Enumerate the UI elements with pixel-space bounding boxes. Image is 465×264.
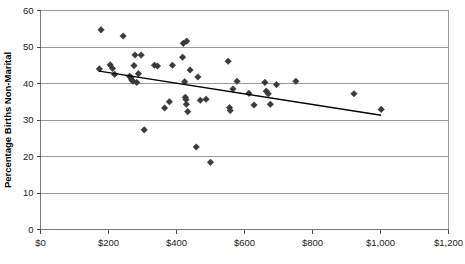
scatter-point <box>351 90 358 97</box>
scatter-point <box>207 159 214 166</box>
y-tick-label: 30 <box>23 114 34 125</box>
chart-canvas: 0102030405060 $0$200$400$600$800$1,000$1… <box>0 0 465 264</box>
scatter-point <box>120 33 127 40</box>
scatter-point <box>98 27 105 34</box>
scatter-point <box>197 97 204 104</box>
scatter-point <box>131 62 138 69</box>
y-axis-title: Percentage Births Non-Marital <box>2 52 13 188</box>
scatter-point <box>251 102 258 109</box>
gridlines <box>41 11 449 230</box>
x-tick-label: $800 <box>302 237 323 248</box>
x-tick-label: $0 <box>35 237 46 248</box>
scatter-point <box>246 90 253 97</box>
x-axis-tick-labels: $0$200$400$600$800$1,000$1,200 <box>35 237 463 248</box>
y-tick-label: 10 <box>23 187 34 198</box>
scatter-point <box>132 52 139 59</box>
x-tick-label: $1,000 <box>366 237 395 248</box>
scatter-point <box>141 127 148 134</box>
x-tick-label: $200 <box>98 237 119 248</box>
axis-ticks <box>37 11 449 234</box>
scatter-point <box>193 144 200 151</box>
scatter-point <box>195 74 202 81</box>
y-axis-tick-labels: 0102030405060 <box>23 5 34 235</box>
y-tick-label: 40 <box>23 78 34 89</box>
x-tick-label: $400 <box>166 237 187 248</box>
scatter-point <box>267 101 274 108</box>
y-tick-label: 60 <box>23 5 34 16</box>
x-tick-label: $1,200 <box>434 237 463 248</box>
scatter-point <box>166 98 173 105</box>
scatter-point <box>169 62 176 69</box>
scatter-point <box>203 96 210 103</box>
scatter-point <box>179 54 186 61</box>
scatter-chart-figure: 0102030405060 $0$200$400$600$800$1,000$1… <box>0 0 465 264</box>
y-tick-label: 0 <box>28 224 33 235</box>
scatter-point <box>183 101 190 108</box>
scatter-point <box>138 52 145 59</box>
scatter-point <box>187 67 194 74</box>
scatter-point <box>135 70 142 77</box>
trendline-segment <box>99 71 381 115</box>
y-tick-label: 50 <box>23 41 34 52</box>
y-axis-title-text: Percentage Births Non-Marital <box>2 52 13 188</box>
scatter-point <box>273 81 280 88</box>
figure-caption <box>2 255 463 264</box>
trendline <box>99 71 381 115</box>
scatter-point <box>161 105 168 112</box>
scatter-point <box>225 58 232 65</box>
y-tick-label: 20 <box>23 151 34 162</box>
scatter-point <box>378 106 385 113</box>
scatter-point <box>184 108 191 115</box>
x-tick-label: $600 <box>234 237 255 248</box>
scatter-point <box>262 79 269 86</box>
